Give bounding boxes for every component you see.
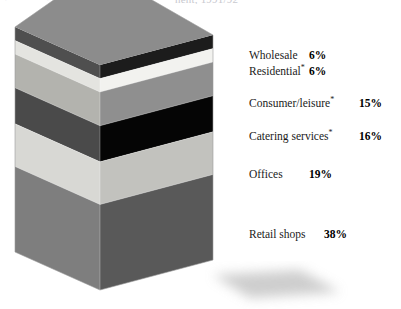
legend-label: Consumer/leisure* bbox=[249, 97, 334, 109]
legend-label: Catering services* bbox=[249, 130, 333, 142]
legend-label: Wholesale bbox=[249, 49, 298, 61]
legend-item[interactable]: Wholesale 6% bbox=[249, 49, 401, 64]
legend-value: 19% bbox=[309, 168, 332, 180]
legend-footnote-marker: * bbox=[329, 128, 333, 137]
legend-footnote-marker: * bbox=[330, 95, 334, 104]
legend-label: Offices bbox=[249, 168, 283, 180]
legend-footnote-marker: * bbox=[301, 63, 305, 72]
legend-value: 38% bbox=[324, 228, 347, 240]
legend-item[interactable]: Offices 19% bbox=[249, 168, 401, 183]
legend-label: Residential* bbox=[249, 65, 305, 77]
legend-item[interactable]: Residential* 6% bbox=[249, 65, 401, 80]
legend-value: 6% bbox=[309, 65, 326, 77]
legend-item[interactable]: Retail shops 38% bbox=[249, 228, 401, 243]
legend-item[interactable]: Consumer/leisure* 15% bbox=[249, 97, 401, 112]
chart-root: · · nent, 1991/92 Wholesale 6% Residenti… bbox=[0, 0, 401, 309]
legend-item[interactable]: Catering services* 16% bbox=[249, 130, 401, 145]
legend: Wholesale 6% Residential* 6% Consumer/le… bbox=[249, 0, 401, 309]
legend-value: 16% bbox=[359, 130, 382, 142]
block-faces bbox=[15, 27, 213, 290]
legend-value: 6% bbox=[309, 49, 326, 61]
legend-value: 15% bbox=[359, 97, 382, 109]
legend-label: Retail shops bbox=[249, 228, 306, 240]
